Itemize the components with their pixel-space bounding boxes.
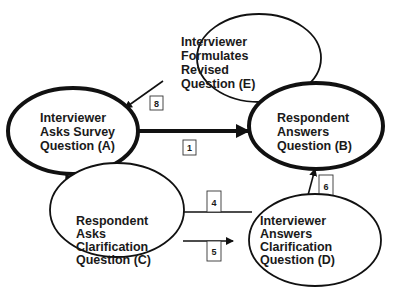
node-e-line-3: Revised: [181, 63, 229, 77]
node-c-line-4: Question (C): [76, 253, 151, 267]
node-a-line-2: Asks Survey: [40, 125, 115, 139]
edge-label-4: 4: [211, 198, 216, 208]
flow-diagram: 1 2 3 4 5 6 7 8 Interviewer Fo: [0, 0, 398, 292]
edge-1: 1: [138, 131, 249, 155]
edge-4: 4: [175, 191, 252, 212]
node-d-line-4: Question (D): [260, 253, 335, 267]
node-b-line-3: Question (B): [277, 139, 352, 153]
node-b-line-1: Respondent: [277, 111, 350, 125]
node-c-line-3: Clarification: [76, 240, 148, 254]
edge-label-5: 5: [211, 247, 216, 257]
edge-5: 5: [183, 241, 233, 261]
node-d-line-2: Answers: [260, 227, 312, 241]
node-c-line-2: Asks: [76, 227, 106, 241]
edge-label-8: 8: [154, 99, 159, 109]
node-e-line-2: Formulates: [181, 49, 248, 63]
edge-label-6: 6: [323, 182, 328, 192]
node-b-line-2: Answers: [277, 125, 329, 139]
node-b: Respondent Answers Question (B): [249, 83, 383, 169]
node-e-line-1: Interviewer: [181, 35, 247, 49]
node-c-line-1: Respondent: [76, 214, 149, 228]
node-d-line-1: Interviewer: [260, 214, 326, 228]
node-e-line-4: Question (E): [181, 77, 255, 91]
node-a-line-3: Question (A): [40, 139, 115, 153]
node-d: Interviewer Answers Clarification Questi…: [249, 194, 381, 286]
node-a: Interviewer Asks Survey Question (A): [8, 88, 138, 174]
edge-8: 8: [125, 81, 163, 110]
node-d-line-3: Clarification: [260, 240, 332, 254]
node-a-line-1: Interviewer: [40, 111, 106, 125]
node-c: Respondent Asks Clarification Question (…: [50, 163, 184, 267]
edge-label-1: 1: [187, 143, 192, 153]
